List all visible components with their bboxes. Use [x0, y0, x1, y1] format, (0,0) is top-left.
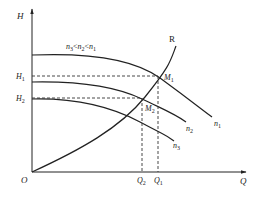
h1-label: H1 [15, 72, 25, 82]
q2-label: Q2 [137, 176, 146, 186]
curve-n1-label: n1 [214, 119, 221, 129]
speed-condition-label: n3<n2<n1 [66, 42, 96, 52]
y-axis-label: H [16, 11, 24, 21]
h2-label: H2 [15, 94, 25, 104]
x-axis-label: Q [240, 176, 247, 186]
q1-label: Q1 [154, 176, 163, 186]
point-m2-label: M2 [144, 104, 155, 114]
curve-n3-label: n3 [173, 141, 180, 151]
curve-n2 [32, 82, 186, 122]
origin-label: O [21, 175, 28, 185]
curve-n2-label: n2 [186, 124, 193, 134]
resistance-curve-label: R [169, 34, 175, 44]
point-m1-label: M1 [163, 73, 174, 83]
curve-n1 [32, 54, 212, 117]
pump-curve-diagram: H Q O n3<n2<n1 n1 n2 n3 R M1 M2 H1 H2 Q2… [0, 0, 263, 199]
